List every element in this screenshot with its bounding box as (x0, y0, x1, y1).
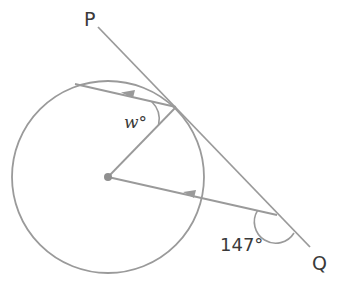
angle-label-w: w° (124, 114, 147, 131)
geometry-figure (0, 0, 340, 285)
tangent-line-pq (98, 27, 310, 247)
diagram-canvas: P Q w° 147° (0, 0, 340, 285)
angle-arc-w (152, 102, 160, 126)
point-label-q: Q (312, 254, 327, 273)
centre-dot (104, 173, 112, 181)
chord-line (75, 84, 176, 107)
angle-label-147: 147° (220, 236, 263, 254)
point-label-p: P (84, 10, 95, 29)
